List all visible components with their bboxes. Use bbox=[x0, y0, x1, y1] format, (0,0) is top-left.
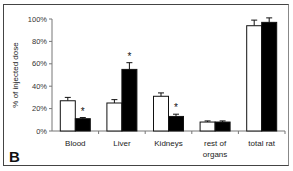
bar-treated bbox=[75, 119, 90, 131]
x-category-label: organs bbox=[203, 150, 227, 159]
panel-label: B bbox=[9, 148, 20, 165]
bar-chart: 0%20%40%60%80%100% *** BloodLiverKidneys… bbox=[0, 0, 293, 171]
bars: *** bbox=[60, 18, 285, 134]
bar-control bbox=[200, 122, 215, 131]
significance-marker: * bbox=[174, 102, 178, 113]
x-category-label: rest of bbox=[204, 139, 227, 148]
y-tick-label: 0% bbox=[36, 127, 47, 136]
bar-treated bbox=[215, 122, 230, 131]
y-axis-ticks: 0%20%40%60%80%100% bbox=[28, 15, 52, 136]
x-category-label: Liver bbox=[113, 139, 131, 148]
bar-treated bbox=[262, 22, 277, 131]
y-tick-label: 40% bbox=[32, 82, 47, 91]
y-tick-label: 100% bbox=[28, 15, 48, 24]
significance-marker: * bbox=[81, 106, 85, 117]
x-category-label: Blood bbox=[65, 139, 85, 148]
bar-treated bbox=[122, 69, 137, 131]
x-category-label: total rat bbox=[248, 139, 275, 148]
x-category-label: Kidneys bbox=[154, 139, 182, 148]
y-tick-label: 60% bbox=[32, 59, 47, 68]
bar-control bbox=[247, 26, 262, 131]
significance-marker: * bbox=[127, 51, 131, 62]
y-tick-label: 20% bbox=[32, 104, 47, 113]
bar-treated bbox=[169, 116, 184, 131]
bar-control bbox=[60, 101, 75, 131]
bar-control bbox=[107, 103, 122, 131]
y-axis-label: % of injected dose bbox=[11, 42, 20, 108]
y-tick-label: 80% bbox=[32, 37, 47, 46]
category-labels: BloodLiverKidneysrest oforganstotal rat bbox=[65, 139, 276, 159]
bar-control bbox=[154, 96, 169, 131]
